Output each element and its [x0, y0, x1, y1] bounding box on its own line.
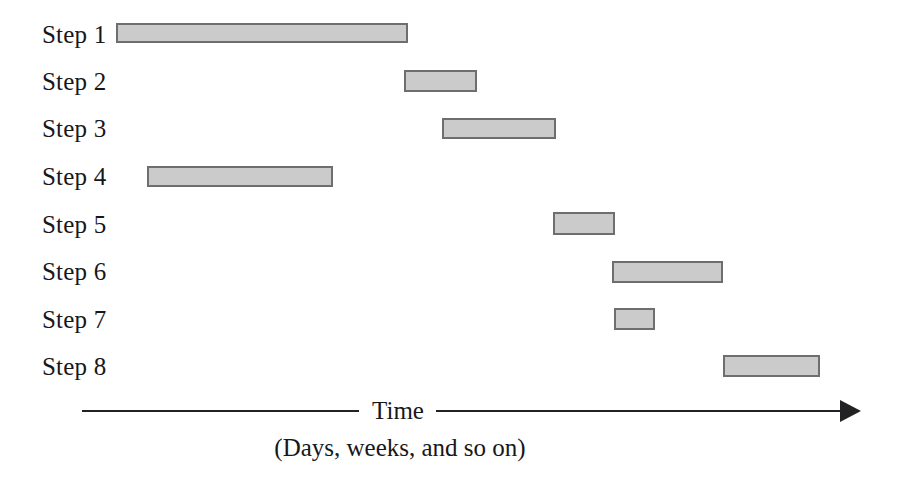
- row-label-step-4: Step 4: [42, 153, 106, 200]
- axis-line-left-segment: [82, 410, 359, 412]
- gantt-bar-step-1[interactable]: [116, 23, 408, 43]
- row-label-step-2: Step 2: [42, 58, 106, 105]
- row-label-step-7: Step 7: [42, 296, 106, 343]
- axis-title-time: Time: [361, 395, 435, 427]
- row-label-step-5: Step 5: [42, 201, 106, 248]
- gantt-row: Step 5: [0, 201, 902, 248]
- gantt-bar-step-2[interactable]: [404, 70, 477, 92]
- gantt-bar-step-3[interactable]: [442, 118, 556, 139]
- gantt-bar-step-8[interactable]: [723, 355, 820, 377]
- gantt-row: Step 1: [0, 11, 902, 58]
- row-label-step-6: Step 6: [42, 248, 106, 295]
- arrow-right-icon: [840, 400, 861, 422]
- gantt-row: Step 3: [0, 105, 902, 152]
- gantt-bar-step-5[interactable]: [553, 212, 615, 235]
- gantt-row: Step 6: [0, 248, 902, 295]
- gantt-bar-step-7[interactable]: [614, 308, 655, 330]
- gantt-row: Step 2: [0, 58, 902, 105]
- row-label-step-8: Step 8: [42, 343, 106, 390]
- gantt-row: Step 4: [0, 153, 902, 200]
- axis-line-right-segment: [436, 410, 846, 412]
- row-label-step-3: Step 3: [42, 105, 106, 152]
- row-label-step-1: Step 1: [42, 11, 106, 58]
- gantt-bar-step-6[interactable]: [612, 261, 723, 283]
- gantt-chart: Step 1Step 2Step 3Step 4Step 5Step 6Step…: [0, 0, 902, 490]
- gantt-row: Step 8: [0, 343, 902, 390]
- gantt-bar-step-4[interactable]: [147, 166, 333, 187]
- axis-subtitle-units: (Days, weeks, and so on): [120, 432, 680, 464]
- gantt-row: Step 7: [0, 296, 902, 343]
